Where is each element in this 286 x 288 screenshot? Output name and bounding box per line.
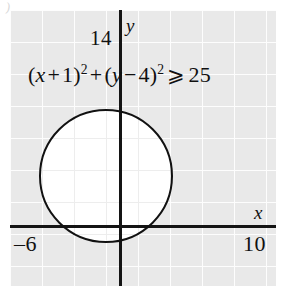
- y-tick-label-14: 14: [90, 28, 112, 49]
- equation-plus-inner: +: [46, 62, 63, 87]
- y-axis-label: y: [126, 16, 134, 35]
- equation-variable-x: x: [36, 62, 46, 87]
- equation-plus-outer: +: [88, 62, 105, 87]
- x-axis-label: x: [254, 203, 262, 222]
- equation-variable-y: y: [112, 62, 122, 87]
- coordinate-plane: [10, 10, 276, 286]
- equation-close-paren: ): [73, 62, 81, 87]
- equation-open-paren-2: (: [104, 62, 112, 87]
- equation-constant-one: 1: [62, 62, 73, 87]
- scan-artifact: ): [6, 0, 28, 10]
- equation-minus-inner: −: [122, 62, 139, 87]
- equation-right-hand-side: 25: [189, 62, 211, 87]
- graph-figure: ) 14 y x –6 10 (x+1)2+(y−4)2⩾25: [0, 0, 286, 288]
- x-tick-label-neg6: –6: [14, 233, 37, 255]
- inequality-expression: (x+1)2+(y−4)2⩾25: [28, 62, 211, 88]
- equation-relation-symbol: ⩾: [164, 63, 188, 87]
- equation-open-paren: (: [28, 62, 36, 87]
- circle-boundary: [39, 109, 173, 243]
- equation-constant-four: 4: [139, 62, 150, 87]
- equation-exponent-first: 2: [81, 62, 88, 77]
- x-tick-label-10: 10: [243, 233, 266, 255]
